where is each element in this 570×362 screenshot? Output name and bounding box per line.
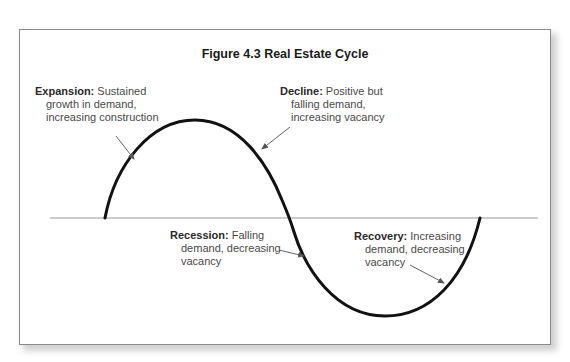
decline-arrow [262,127,290,149]
decline-label: Decline: Positive but falling demand, in… [280,85,385,123]
recovery-term: Recovery: [354,230,407,242]
cycle-diagram [0,0,570,362]
recession-term: Recession: [170,229,229,241]
recovery-line3: vacancy [354,256,465,269]
expansion-term: Expansion: [35,85,94,97]
decline-line1: Positive but [323,85,383,97]
expansion-line1: Sustained [94,85,146,97]
decline-line2: falling demand, [280,98,385,111]
recovery-line1: Increasing [407,230,461,242]
decline-line3: increasing vacancy [280,111,385,124]
recession-line1: Falling [229,229,264,241]
recession-line2: demand, decreasing [170,242,281,255]
expansion-label: Expansion: Sustained growth in demand, i… [35,85,159,123]
decline-term: Decline: [280,85,323,97]
expansion-line3: increasing construction [35,111,159,124]
recovery-label: Recovery: Increasing demand, decreasing … [354,230,465,268]
recovery-line2: demand, decreasing [354,243,465,256]
expansion-line2: growth in demand, [35,98,159,111]
recession-line3: vacancy [170,255,281,268]
recession-label: Recession: Falling demand, decreasing va… [170,229,281,267]
expansion-arrow [116,136,134,159]
